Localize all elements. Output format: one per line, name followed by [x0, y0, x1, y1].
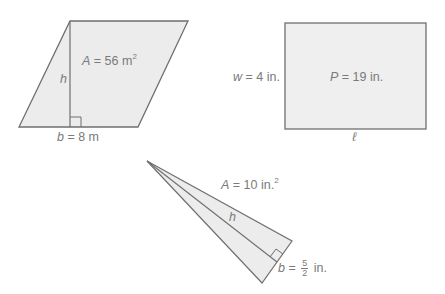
parallelogram-area-label: A = 56 m2	[82, 55, 137, 68]
base-unit: in.	[310, 261, 327, 275]
triangle-area-label: A = 10 in.2	[221, 179, 279, 192]
geometry-figures	[0, 0, 445, 294]
area-exponent: 2	[274, 176, 278, 185]
parallelogram	[19, 21, 188, 127]
base-equals: =	[285, 261, 299, 275]
base-var: b	[57, 130, 64, 144]
base-var: b	[278, 261, 285, 275]
parallelogram-height-label: h	[60, 73, 67, 86]
base-fraction: 52	[301, 259, 308, 278]
area-value: = 10 in.	[229, 178, 274, 192]
triangle-height-line	[147, 161, 277, 262]
base-value: = 8 m	[64, 130, 99, 144]
perimeter-value: = 19 in.	[338, 70, 383, 84]
area-value: = 56 m	[90, 54, 132, 68]
width-value: = 4 in.	[242, 70, 280, 84]
parallelogram-shape	[19, 21, 188, 127]
parallelogram-base-label: b = 8 m	[57, 131, 99, 144]
triangle-height-label: h	[229, 211, 236, 224]
fraction-denominator: 2	[301, 269, 308, 278]
rectangle-width-label: w = 4 in.	[233, 71, 280, 84]
rectangle-length-label: ℓ	[352, 131, 356, 144]
triangle-base-label: b = 52 in.	[278, 259, 327, 278]
area-exponent: 2	[132, 52, 136, 61]
width-var: w	[233, 70, 242, 84]
rectangle-perimeter-label: P = 19 in.	[330, 71, 383, 84]
